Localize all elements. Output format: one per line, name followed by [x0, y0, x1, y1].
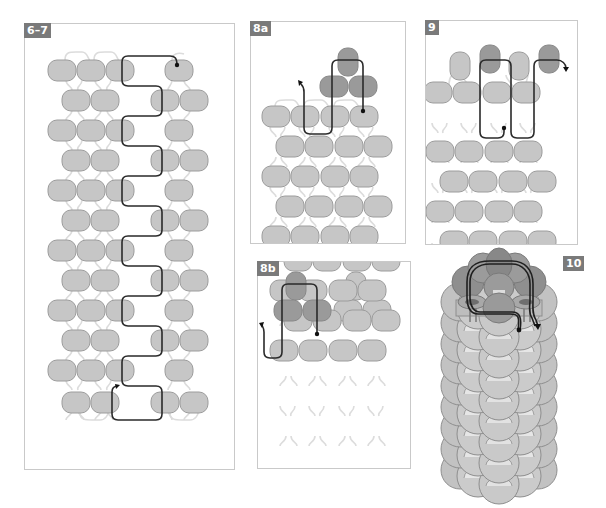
bead-diagram — [0, 0, 606, 508]
step-label-8a: 8a — [250, 21, 271, 36]
panel-9-art — [424, 45, 569, 283]
panel-8a-art — [262, 48, 392, 247]
step-label-6-7: 6–7 — [24, 23, 51, 38]
panel-10-art — [441, 248, 557, 504]
step-label-10: 10 — [563, 256, 584, 271]
step-label-8b: 8b — [257, 261, 279, 276]
panel-6-7-art — [48, 52, 208, 420]
step-label-9: 9 — [425, 20, 439, 35]
panel-8b-art — [259, 220, 400, 446]
